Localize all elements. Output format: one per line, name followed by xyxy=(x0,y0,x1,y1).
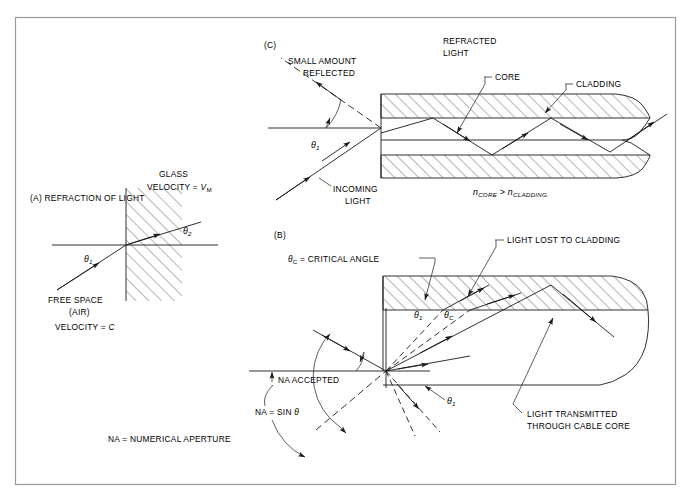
reflected-ray-arrow xyxy=(316,82,341,100)
free-space-velocity-label: VELOCITY = C xyxy=(55,322,116,332)
na-formula-leader-upper xyxy=(264,385,273,406)
panel-b-core-break-curve xyxy=(600,310,649,385)
refracted-light-line1: REFRACTED xyxy=(443,36,496,46)
panel-b-rejected-ray-2 xyxy=(386,371,415,436)
small-amount-reflected-line2: REFLECTED xyxy=(303,68,355,78)
light-transmitted-line2: THROUGH CABLE CORE xyxy=(527,421,630,431)
panel-c-theta1-arc-arrow xyxy=(326,118,330,128)
na-acceptance-arc-arrow-top xyxy=(324,334,330,341)
light-transmitted-leader-line xyxy=(513,318,553,404)
light-transmitted-leader-foot xyxy=(513,404,522,413)
incoming-light-line1: INCOMING xyxy=(333,184,378,194)
transmitted-ray-arrow1 xyxy=(420,336,452,353)
lost-ray-dashed-2 xyxy=(386,310,470,371)
panel-a-refraction-of-light: (A) REFRACTION OF LIGHT θ1 θ2 xyxy=(30,169,231,444)
free-space-label-line2: (AIR) xyxy=(69,307,90,317)
panel-c-core-break-upper xyxy=(622,118,650,140)
panel-c-theta1-arc xyxy=(326,100,341,128)
incoming-light-ray-arrow1 xyxy=(276,177,310,200)
panel-c-zigzag-ray xyxy=(381,118,610,155)
incoming-light-leader xyxy=(319,178,331,186)
panel-b-shallow-ray-arrow xyxy=(398,364,428,369)
cladding-label: CLADDING xyxy=(576,79,621,89)
glass-velocity-label: VELOCITY = VM xyxy=(147,182,212,193)
small-amount-reflected-line1: SMALL AMOUNT xyxy=(288,56,356,66)
na-accepted-label: NA ACCEPTED xyxy=(278,375,339,385)
panel-c-core-break-lower xyxy=(622,140,650,155)
incoming-light-ray-arrow2 xyxy=(322,142,350,161)
panel-c-theta1-label: θ1 xyxy=(311,140,320,151)
na-formula-label: NA = SIN θ xyxy=(255,407,299,417)
panel-a-theta1-label: θ1 xyxy=(84,254,93,265)
panel-c-ray-arrow1 xyxy=(443,124,470,141)
figure-root: (A) REFRACTION OF LIGHT θ1 θ2 xyxy=(0,0,692,497)
panel-c-ray-arrow2 xyxy=(502,133,528,149)
na-formula-leader-lower xyxy=(272,420,305,457)
na-definition-label: NA = NUMERICAL APERTURE xyxy=(108,434,231,444)
panel-b-rejected-ray-1 xyxy=(386,371,440,432)
panel-b-key: (B) xyxy=(274,230,286,240)
refracted-light-line2: LIGHT xyxy=(443,48,469,58)
free-space-label-line1: FREE SPACE xyxy=(48,295,103,305)
panel-c-top-cladding-hatch xyxy=(378,92,654,122)
panel-c-refracted-light: (C) θ1 SMALL AMOUNT REFLECTED INCOMING L… xyxy=(264,36,667,206)
core-label: CORE xyxy=(495,72,520,82)
panel-b-critical-angle: (B) θC = CRITICAL ANGLE xyxy=(249,230,656,457)
critical-angle-label: θC = CRITICAL ANGLE xyxy=(288,254,380,265)
incoming-light-line2: LIGHT xyxy=(345,196,371,206)
panel-b-thetaC-label: θC xyxy=(444,310,454,321)
panel-b-theta1-lower-label: θ1 xyxy=(447,396,456,407)
panel-c-key: (C) xyxy=(264,40,276,50)
fiber-optics-diagram: (A) REFRACTION OF LIGHT θ1 θ2 xyxy=(0,0,692,497)
panel-c-ray-arrow3 xyxy=(560,124,588,140)
light-transmitted-line1: LIGHT TRANSMITTED xyxy=(527,409,618,419)
refractive-index-relation: nCORE > nCLADDING. xyxy=(473,187,549,198)
panel-c-exit-ray-arrow xyxy=(626,122,654,141)
panel-b-theta1-lower-leader xyxy=(425,386,445,400)
glass-label: GLASS xyxy=(159,169,188,179)
glass-hatching xyxy=(126,188,182,301)
na-acceptance-arc-arrow-bottom xyxy=(340,427,346,433)
panel-c-bottom-cladding-hatch xyxy=(378,153,654,183)
panel-a-theta2-label: θ2 xyxy=(183,226,192,237)
incident-ray-a-arrow xyxy=(57,263,99,290)
light-lost-to-cladding-label: LIGHT LOST TO CLADDING xyxy=(507,235,620,245)
panel-b-rejected-ray-arrow xyxy=(397,384,419,409)
na-upper-edge-ray-arrow xyxy=(322,335,350,351)
critical-angle-leader-bracket xyxy=(419,258,435,262)
panel-b-theta1-label: θ1 xyxy=(414,310,423,321)
